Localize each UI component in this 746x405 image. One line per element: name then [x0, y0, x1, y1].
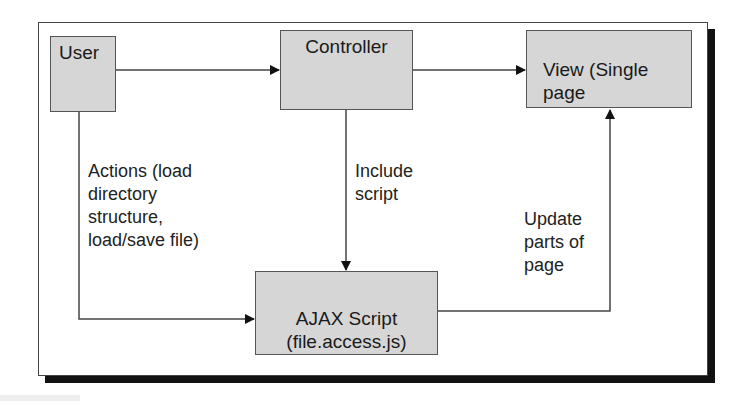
node-controller-label: Controller [305, 36, 387, 57]
node-ajax-label: AJAX Script (file.access.js) [286, 308, 406, 352]
node-ajax-script: AJAX Script (file.access.js) [255, 271, 438, 355]
edge-label-include-script: Include script [355, 160, 413, 206]
scan-artifact [0, 395, 80, 401]
node-user-label: User [59, 42, 99, 63]
node-user: User [50, 36, 116, 112]
node-view-label: View (Single page [543, 59, 648, 103]
edge-label-actions: Actions (load directory structure, load/… [88, 160, 199, 252]
node-view: View (Single page [526, 30, 692, 108]
node-controller: Controller [280, 30, 413, 110]
edge-label-update-page: Update parts of page [524, 208, 584, 277]
